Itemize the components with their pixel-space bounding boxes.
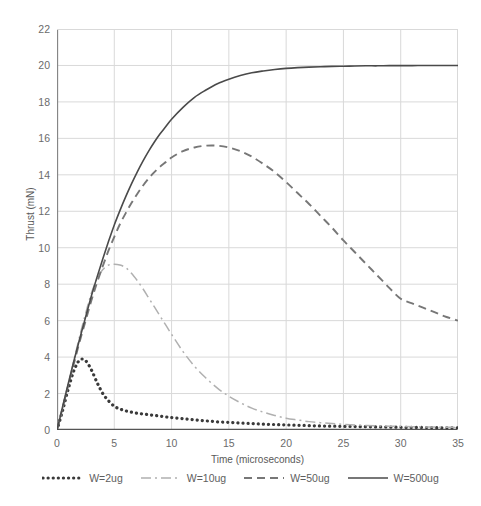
legend-swatch-dotted (42, 473, 84, 483)
y-tick-label: 22 (38, 23, 50, 35)
legend-swatch-solid (347, 473, 389, 483)
x-axis-title: Time (microseconds) (57, 454, 458, 465)
series-line-w-50ug (57, 145, 458, 430)
legend-item[interactable]: W=2ug (42, 472, 123, 484)
legend-label: W=2ug (89, 472, 123, 484)
legend-label: W=50ug (290, 472, 329, 484)
chart-container: 0246810121416182022 05101520253035 Thrus… (0, 0, 481, 506)
y-tick-label: 2 (44, 388, 50, 400)
y-tick-label: 0 (44, 424, 50, 436)
y-tick-label: 12 (38, 205, 50, 217)
legend-swatch-dashdot (140, 473, 182, 483)
series-line-w-10ug (57, 264, 458, 430)
horizontal-gridlines (57, 29, 458, 394)
legend-label: W=10ug (187, 472, 226, 484)
x-tick-label: 20 (280, 437, 292, 449)
y-tick-label: 18 (38, 96, 50, 108)
y-tick-label: 14 (38, 169, 50, 181)
x-tick-label: 35 (452, 437, 464, 449)
chart-legend: W=2ugW=10ugW=50ugW=500ug (0, 472, 481, 484)
x-tick-label: 0 (54, 437, 60, 449)
legend-swatch-dashed (243, 473, 285, 483)
plot-svg (57, 29, 458, 430)
y-tick-label: 16 (38, 132, 50, 144)
x-tick-label: 5 (111, 437, 117, 449)
x-tick-label: 10 (166, 437, 178, 449)
x-tick-label: 25 (338, 437, 350, 449)
legend-item[interactable]: W=10ug (140, 472, 226, 484)
legend-item[interactable]: W=500ug (347, 472, 439, 484)
legend-label: W=500ug (394, 472, 439, 484)
y-tick-label: 10 (38, 242, 50, 254)
y-axis-title: Thrust (mN) (25, 154, 39, 274)
x-tick-label: 15 (223, 437, 235, 449)
x-tick-label: 30 (395, 437, 407, 449)
y-tick-label: 4 (44, 351, 50, 363)
y-tick-label: 20 (38, 59, 50, 71)
y-tick-label: 8 (44, 278, 50, 290)
series-line-w-2ug (57, 359, 458, 430)
y-tick-label: 6 (44, 315, 50, 327)
legend-item[interactable]: W=50ug (243, 472, 329, 484)
vertical-gridlines (114, 29, 458, 430)
plot-area: 0246810121416182022 05101520253035 Thrus… (57, 29, 458, 430)
